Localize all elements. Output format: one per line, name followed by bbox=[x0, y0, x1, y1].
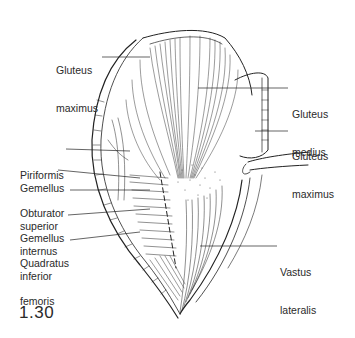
label-line-2: lateralis bbox=[280, 304, 316, 317]
stipple-shading bbox=[178, 165, 221, 201]
figure-number: 1.30 bbox=[19, 303, 54, 323]
label-gluteus-maximus-right: Gluteus maximus bbox=[292, 125, 334, 225]
label-line-1: Gluteus bbox=[292, 108, 328, 121]
label-vastus-lateralis: Vastus lateralis bbox=[280, 241, 316, 338]
anatomy-figure: Gluteus maximus Gluteus medius Gluteus m… bbox=[0, 0, 355, 338]
label-line-2: maximus bbox=[56, 102, 98, 115]
label-line-1: Quadratus bbox=[20, 257, 69, 270]
label-line-1: Gluteus bbox=[56, 64, 98, 77]
label-line-1: Gluteus bbox=[292, 150, 334, 163]
label-gluteus-maximus-left: Gluteus maximus bbox=[56, 39, 98, 139]
label-line-1: Vastus bbox=[280, 266, 316, 279]
label-line-2: maximus bbox=[292, 188, 334, 201]
